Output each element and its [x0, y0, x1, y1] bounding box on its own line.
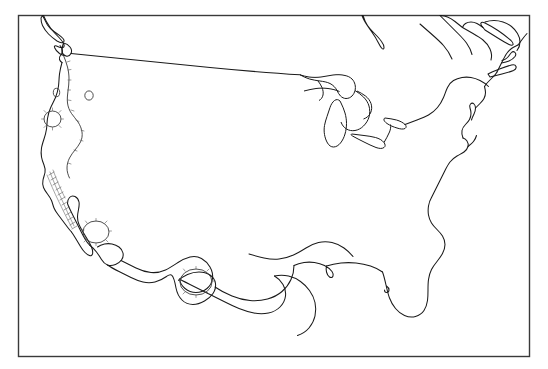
outline-map-canvas — [0, 0, 548, 369]
map-border-frame — [19, 16, 530, 357]
map-figure: Blank outline map of the contiguous Unit… — [0, 0, 548, 369]
